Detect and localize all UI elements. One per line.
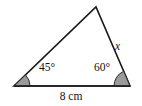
base-length-label: 8 cm xyxy=(0,91,142,103)
triangle-outline xyxy=(14,7,130,86)
angle-label-right: 60° xyxy=(94,62,110,74)
figure-container: 45° 60° x 8 cm xyxy=(0,0,142,106)
angle-label-left: 45° xyxy=(39,62,55,74)
side-label-x: x xyxy=(115,41,120,53)
